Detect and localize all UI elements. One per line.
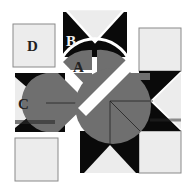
quilt-diagram: D B A C — [0, 0, 188, 187]
label-b: B — [66, 33, 76, 49]
label-c: C — [18, 96, 29, 112]
label-a: A — [73, 59, 84, 75]
label-d: D — [27, 38, 38, 54]
bottom-left-square — [15, 138, 58, 181]
